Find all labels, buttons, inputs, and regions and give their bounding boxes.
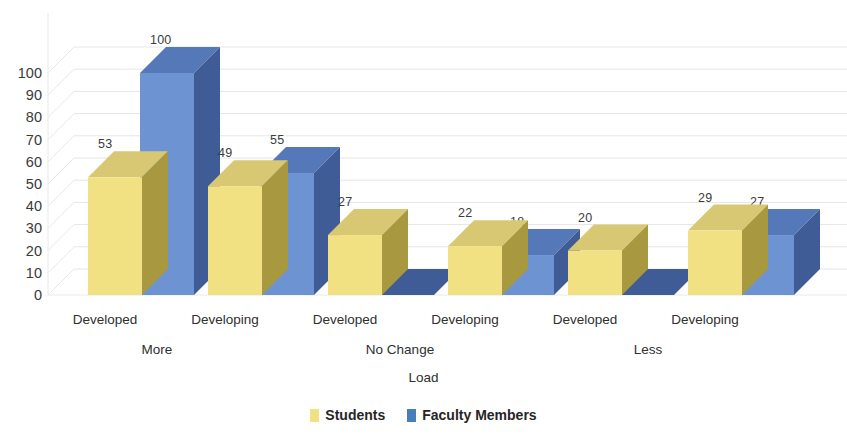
plot-area: 10055018027534927222029	[0, 0, 847, 310]
x-axis-category-label: Developing	[191, 313, 259, 327]
bar-students-4	[0, 0, 847, 310]
x-axis-category-label: Developed	[73, 313, 138, 327]
x-axis-category-label: Developing	[671, 313, 739, 327]
legend-item-faculty-members[interactable]: Faculty Members	[407, 408, 536, 422]
bar-faculty-3	[0, 0, 847, 310]
legend-label: Students	[325, 408, 385, 422]
bar-value-label: 55	[270, 134, 284, 147]
bar-faculty-0	[0, 0, 847, 310]
bar-students-2	[0, 0, 847, 310]
bar-value-label: 20	[578, 212, 592, 225]
bar-faculty-1	[0, 0, 847, 310]
legend-item-students[interactable]: Students	[310, 408, 385, 422]
chart-container: 1009080706050403020100 10055018027534927…	[0, 0, 847, 434]
legend-label: Faculty Members	[422, 408, 536, 422]
x-axis-group-label: Less	[634, 343, 663, 357]
legend-swatch-icon	[407, 409, 416, 422]
bar-faculty-4	[0, 0, 847, 310]
bar-faculty-2	[0, 0, 847, 310]
x-axis-category-label: Developed	[313, 313, 378, 327]
legend-swatch-icon	[310, 409, 319, 422]
bar-value-label: 27	[338, 196, 352, 209]
bar-value-label: 0	[630, 256, 637, 269]
bar-value-label: 0	[390, 256, 397, 269]
bar-value-label: 29	[698, 192, 712, 205]
x-axis-group-label: More	[142, 343, 173, 357]
bar-students-3	[0, 0, 847, 310]
bar-value-label: 49	[218, 147, 232, 160]
x-axis-category-label: Developing	[431, 313, 499, 327]
bar-students-5	[0, 0, 847, 310]
bar-value-label: 100	[150, 34, 171, 47]
chart-legend: StudentsFaculty Members	[0, 408, 847, 422]
bar-students-1	[0, 0, 847, 310]
bar-value-label: 22	[458, 207, 472, 220]
bar-value-label: 53	[98, 138, 112, 151]
x-axis-group-label: No Change	[366, 343, 434, 357]
bar-students-0	[0, 0, 847, 310]
bar-faculty-5	[0, 0, 847, 310]
x-axis-category-label: Developed	[553, 313, 618, 327]
bar-value-label: 18	[510, 216, 524, 229]
x-axis-title: Load	[0, 370, 847, 385]
bar-value-label: 27	[750, 196, 764, 209]
